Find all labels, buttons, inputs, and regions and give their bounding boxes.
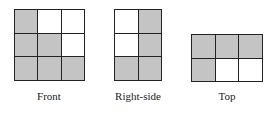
top-grid [191, 34, 263, 82]
right-side-cell-r3c2 [139, 57, 162, 80]
front-cell-r2c2 [38, 34, 60, 57]
front-cell-r1c1 [15, 10, 37, 33]
right-side-cell-r1c2 [139, 10, 162, 33]
right-side-cell-r2c1 [115, 34, 138, 57]
top-cell-r2c2 [216, 59, 239, 82]
front-cell-r3c3 [62, 57, 84, 80]
front-cell-r3c2 [38, 57, 60, 80]
top-cell-r1c3 [239, 35, 262, 58]
top-cell-r2c1 [192, 59, 215, 82]
right-side-cell-r2c2 [139, 34, 162, 57]
front-cell-r1c3 [62, 10, 84, 33]
front-label: Front [37, 90, 61, 102]
top-label: Top [219, 90, 236, 102]
top-cell-r1c2 [216, 35, 239, 58]
right-side-label: Right-side [115, 90, 161, 102]
right-side-cell-r1c1 [115, 10, 138, 33]
front-grid [14, 9, 85, 81]
front-cell-r1c2 [38, 10, 60, 33]
front-cell-r3c1 [15, 57, 37, 80]
right-side-cell-r3c1 [115, 57, 138, 80]
top-cell-r1c1 [192, 35, 215, 58]
front-cell-r2c3 [62, 34, 84, 57]
top-cell-r2c3 [239, 59, 262, 82]
front-cell-r2c1 [15, 34, 37, 57]
right-side-grid [114, 9, 162, 81]
